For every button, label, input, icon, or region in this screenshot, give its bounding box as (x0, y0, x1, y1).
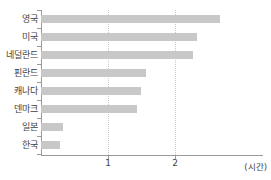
bar (41, 105, 137, 113)
bar (41, 69, 146, 77)
bar (41, 33, 197, 41)
bar (41, 87, 141, 95)
bar-row (41, 64, 239, 82)
bar-row (41, 136, 239, 154)
y-axis-category-label: 한국 (22, 136, 38, 154)
bar-row (41, 28, 239, 46)
y-axis-category-label: 덴마크 (14, 100, 38, 118)
bar (41, 123, 63, 131)
x-tick-label: 2 (172, 158, 178, 168)
y-axis-category-label: 네덜란드 (6, 46, 38, 64)
bar (41, 51, 193, 59)
y-axis-category-label: 캐나다 (14, 82, 38, 100)
bar-row (41, 46, 239, 64)
bar (41, 15, 220, 23)
x-axis-line (41, 155, 263, 156)
y-axis-category-label: 핀란드 (14, 64, 38, 82)
x-axis-unit-label: (시간) (244, 160, 267, 172)
x-tick-label: 1 (105, 158, 111, 168)
bar-row (41, 100, 239, 118)
plot-area (41, 10, 239, 155)
y-axis-category-label: 미국 (22, 28, 38, 46)
y-axis-category-label: 영국 (22, 10, 38, 28)
y-axis-category-label: 일본 (22, 118, 38, 136)
bar-chart: 12 영국미국네덜란드핀란드캐나다덴마크일본한국 (시간) (0, 0, 271, 180)
bar-row (41, 118, 239, 136)
bar-row (41, 82, 239, 100)
bar-row (41, 10, 239, 28)
bar (41, 141, 60, 149)
